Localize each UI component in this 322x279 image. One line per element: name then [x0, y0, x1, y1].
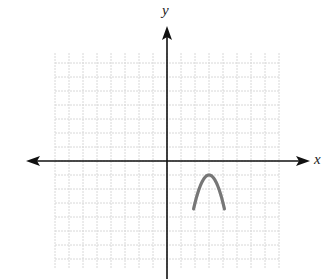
y-axis-label: y	[162, 2, 169, 19]
coordinate-plane	[0, 0, 322, 279]
y-axis	[162, 26, 172, 279]
x-axis-label: x	[314, 151, 321, 168]
